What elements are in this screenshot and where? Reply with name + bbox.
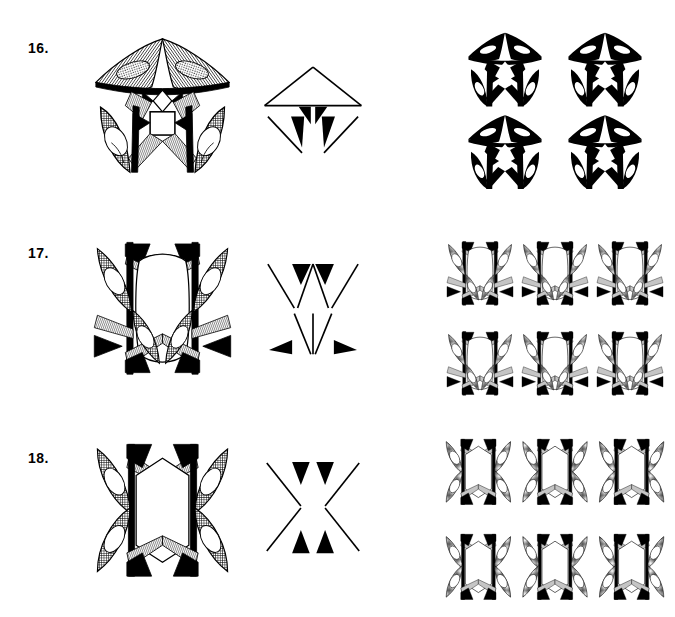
exercise-row-18: 18. [0,0,675,200]
lyre-skeleton-svg [258,252,368,362]
column-pattern-svg [440,424,670,614]
column-motif-svg [85,432,240,587]
lyre-pattern-svg [440,228,670,408]
skeleton-17-diagram [258,252,368,362]
motif-17-detailed [85,230,240,385]
skeleton-18-diagram [258,452,368,562]
ornament-plate-page: 16. 17. [0,0,675,617]
row-label-17: 17. [28,245,49,261]
row-label-18: 18. [28,450,49,466]
motif-18-detailed [85,432,240,587]
column-skeleton-svg [258,452,368,562]
lyre-motif-svg [85,230,240,385]
pattern-18-repeat [440,424,670,614]
pattern-17-repeat [440,228,670,408]
